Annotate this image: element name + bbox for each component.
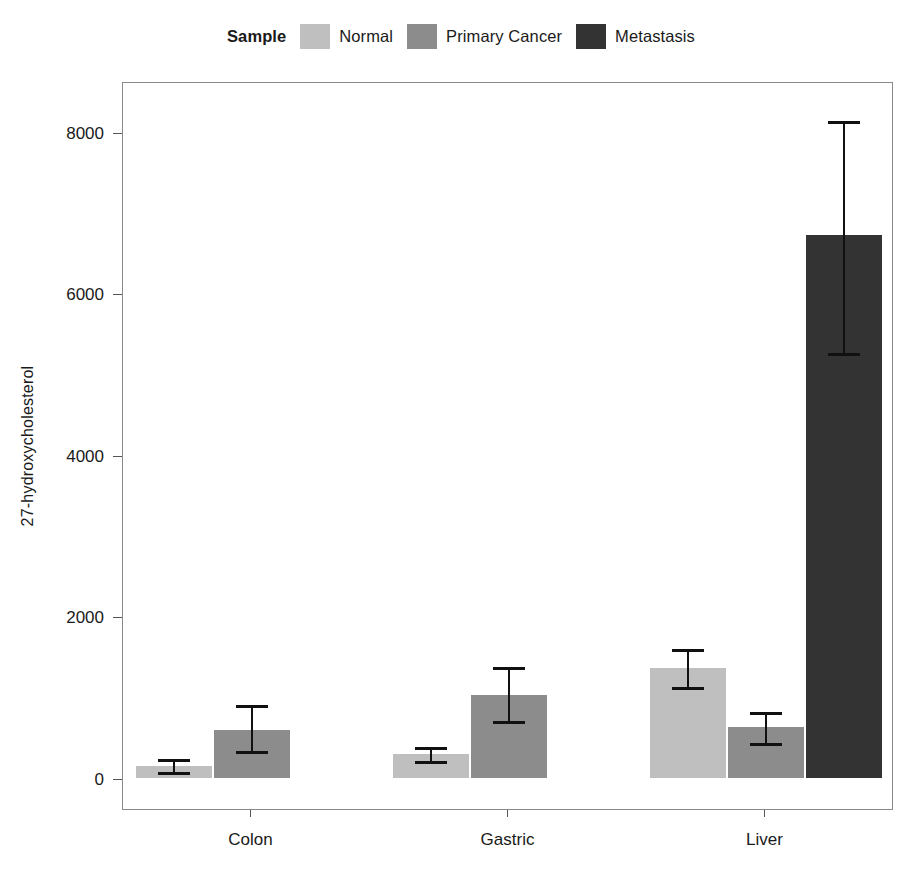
legend-title: Sample xyxy=(227,27,286,46)
error-bar-cap-upper xyxy=(493,667,525,670)
error-bar-cap-lower xyxy=(828,353,860,356)
y-tick-label: 0 xyxy=(95,771,104,788)
y-tick-mark xyxy=(113,617,122,618)
plot-area xyxy=(122,82,893,810)
plot-inner xyxy=(123,83,892,809)
x-tick-label: Gastric xyxy=(481,830,535,850)
error-bar-cap-lower xyxy=(415,761,447,764)
error-bar-line xyxy=(765,712,767,746)
error-bar-cap-upper xyxy=(828,121,860,124)
chart-legend: Sample Normal Primary Cancer Metastasis xyxy=(0,24,922,49)
x-tick-colon: Colon xyxy=(191,810,311,854)
legend-swatch-primary-cancer xyxy=(407,24,437,49)
legend-item-normal[interactable]: Normal xyxy=(300,24,393,49)
chart-root: Sample Normal Primary Cancer Metastasis … xyxy=(0,0,922,871)
error-bar-cap-upper xyxy=(158,759,190,762)
legend-item-primary-cancer[interactable]: Primary Cancer xyxy=(407,24,562,49)
error-bar-cap-lower xyxy=(750,743,782,746)
legend-label-primary-cancer: Primary Cancer xyxy=(446,27,562,46)
y-tick-label: 8000 xyxy=(66,125,104,142)
error-bar-cap-upper xyxy=(750,712,782,715)
error-bar-cap-upper xyxy=(672,649,704,652)
x-tick-mark xyxy=(250,810,251,817)
error-bar-cap-lower xyxy=(236,751,268,754)
x-tick-label: Colon xyxy=(228,830,272,850)
y-tick-label: 2000 xyxy=(66,609,104,626)
x-tick-gastric: Gastric xyxy=(448,810,568,854)
y-tick-label: 4000 xyxy=(66,448,104,465)
x-tick-mark xyxy=(507,810,508,817)
legend-item-metastasis[interactable]: Metastasis xyxy=(576,24,695,49)
y-axis-title: 27-hydroxycholesterol xyxy=(14,82,42,810)
y-tick-mark xyxy=(113,456,122,457)
error-bar-cap-upper xyxy=(236,705,268,708)
x-tick-label: Liver xyxy=(746,830,783,850)
legend-label-normal: Normal xyxy=(339,27,393,46)
y-tick-mark xyxy=(113,133,122,134)
legend-label-metastasis: Metastasis xyxy=(615,27,695,46)
error-bar-line xyxy=(508,667,510,724)
y-tick-label: 6000 xyxy=(66,286,104,303)
y-tick-mark xyxy=(113,294,122,295)
error-bar-cap-lower xyxy=(672,687,704,690)
x-tick-liver: Liver xyxy=(705,810,825,854)
legend-swatch-normal xyxy=(300,24,330,49)
error-bar-cap-lower xyxy=(493,721,525,724)
error-bar-cap-lower xyxy=(158,772,190,775)
y-tick-mark xyxy=(113,779,122,780)
error-bar-line xyxy=(251,705,253,754)
legend-swatch-metastasis xyxy=(576,24,606,49)
x-tick-mark xyxy=(764,810,765,817)
error-bar-line xyxy=(843,121,845,356)
error-bar-cap-upper xyxy=(415,747,447,750)
error-bar-line xyxy=(687,649,689,690)
